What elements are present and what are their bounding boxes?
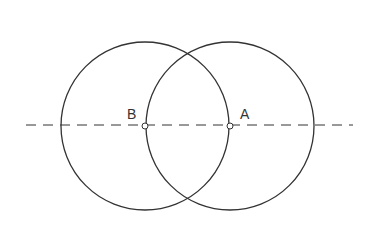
point-a-marker	[227, 123, 233, 129]
point-a-label: A	[240, 106, 250, 122]
point-b-marker	[142, 123, 148, 129]
point-b-label: B	[127, 106, 136, 122]
diagram-canvas: B A	[0, 0, 369, 235]
